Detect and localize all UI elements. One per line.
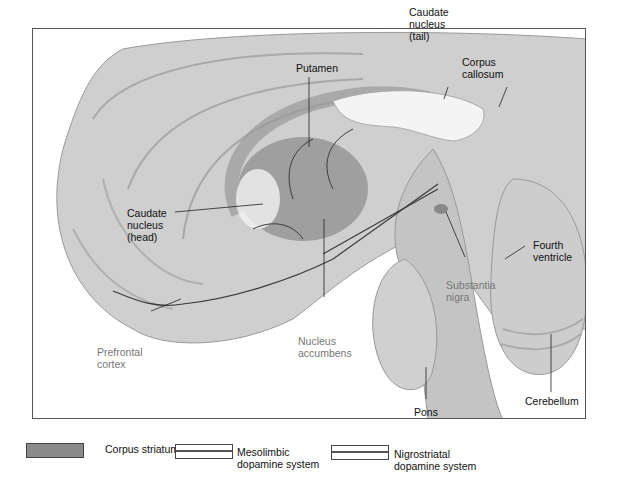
legend-label-nigrostriatal: Nigrostriatal dopamine system [394,448,476,472]
label-substantia-nigra: Substantia nigra [446,279,496,303]
label-pons: Pons [414,406,438,418]
label-corpus-callosum: Corpus callosum [462,56,503,80]
label-caudate-tail: Caudate nucleus (tail) [409,6,449,42]
label-prefrontal-cortex: Prefrontal cortex [97,346,143,370]
label-putamen: Putamen [296,62,338,74]
legend-label-corpus-striatum: Corpus striatum [105,443,179,455]
label-fourth-ventricle: Fourth ventricle [533,239,572,263]
label-cerebellum: Cerebellum [525,395,579,407]
label-nucleus-accumbens: Nucleus accumbens [298,335,352,359]
legend-swatch-nigrostriatal [331,445,389,460]
legend-label-mesolimbic: Mesolimbic dopamine system [237,446,319,470]
label-caudate-head: Caudate nucleus (head) [127,207,167,243]
legend-swatch-mesolimbic [175,444,233,459]
legend-swatch-corpus-striatum [26,443,84,458]
